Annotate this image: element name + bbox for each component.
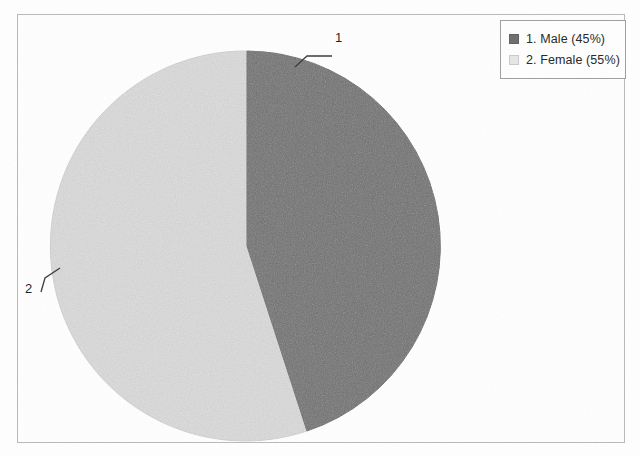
pie-label-1: 1 (335, 30, 342, 45)
legend-label-male: 1. Male (45%) (526, 32, 605, 46)
legend-item-female[interactable]: 2. Female (55%) (509, 49, 617, 70)
pie-label-2: 2 (25, 281, 32, 296)
female-swatch-icon (509, 55, 519, 65)
male-swatch-icon (509, 34, 519, 44)
chart-legend: 1. Male (45%) 2. Female (55%) (500, 20, 626, 79)
legend-label-female: 2. Female (55%) (526, 53, 620, 67)
legend-item-male[interactable]: 1. Male (45%) (509, 28, 617, 49)
